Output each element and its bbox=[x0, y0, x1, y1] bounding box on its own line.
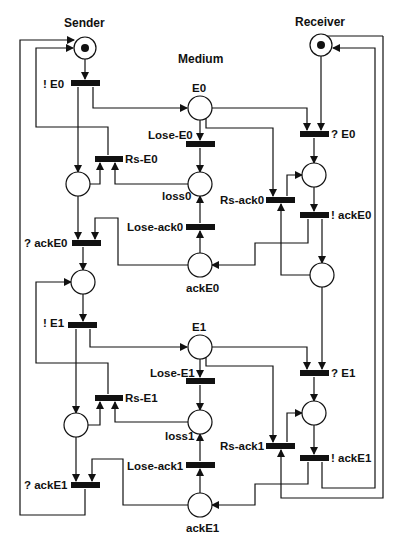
token-sender-init bbox=[81, 44, 89, 52]
label-send-E0: ! E0 bbox=[43, 78, 64, 90]
place-E1 bbox=[188, 335, 212, 359]
place-E0 bbox=[188, 96, 212, 120]
place-receiver-ready1 bbox=[310, 263, 334, 287]
transition-rs-ack1 bbox=[266, 443, 295, 449]
place-ackE0 bbox=[188, 253, 212, 277]
label-send-ackE0: ! ackE0 bbox=[331, 209, 371, 221]
transition-send-ackE0 bbox=[300, 212, 329, 218]
transition-send-E1 bbox=[68, 322, 97, 328]
transition-rs-E1 bbox=[95, 395, 123, 401]
label-recv-E0: ? E0 bbox=[331, 128, 355, 140]
transition-rs-ack0 bbox=[266, 197, 295, 203]
label-place-ackE0: ackE0 bbox=[186, 282, 219, 294]
transition-recv-E1 bbox=[300, 370, 329, 376]
label-place-ackE1: ackE1 bbox=[186, 522, 220, 534]
transition-lose-E0 bbox=[186, 141, 215, 147]
label-place-loss0: loss0 bbox=[162, 190, 191, 202]
label-place-loss1: loss1 bbox=[165, 430, 195, 442]
label-place-E1: E1 bbox=[192, 321, 207, 333]
place-sender-wait1 bbox=[64, 413, 88, 437]
label-lose-E1: Lose-E1 bbox=[150, 367, 195, 379]
transition-recv-ackE0 bbox=[72, 240, 101, 246]
label-rs-ack0: Rs-ack0 bbox=[220, 194, 264, 206]
place-receiver-got1 bbox=[302, 401, 326, 425]
transition-recv-ackE1 bbox=[71, 482, 100, 488]
label-send-ackE1: ! ackE1 bbox=[331, 452, 372, 464]
petri-net-diagram: Sender Medium Receiver bbox=[0, 0, 399, 545]
label-rs-E1: Rs-E1 bbox=[125, 392, 158, 404]
label-place-E0: E0 bbox=[192, 82, 206, 94]
transition-recv-E0 bbox=[300, 131, 329, 137]
transition-send-E0 bbox=[71, 80, 100, 86]
label-send-E1: ! E1 bbox=[43, 317, 65, 329]
label-recv-ackE1: ? ackE1 bbox=[24, 479, 68, 491]
label-lose-ack1: Lose-ack1 bbox=[127, 460, 184, 472]
label-recv-ackE0: ? ackE0 bbox=[24, 237, 67, 249]
label-recv-E1: ? E1 bbox=[331, 367, 356, 379]
place-receiver-got0 bbox=[302, 163, 326, 187]
transition-send-ackE1 bbox=[300, 455, 329, 461]
place-loss0 bbox=[188, 172, 212, 196]
place-sender-wait0 bbox=[66, 172, 90, 196]
receiver-header: Receiver bbox=[295, 15, 345, 29]
transition-lose-ack1 bbox=[186, 462, 215, 468]
transition-rs-E0 bbox=[95, 156, 123, 162]
token-receiver-init bbox=[317, 41, 325, 49]
place-ackE1 bbox=[188, 493, 212, 517]
label-rs-E0: Rs-E0 bbox=[125, 153, 158, 165]
medium-header: Medium bbox=[178, 52, 223, 66]
place-sender-ready1 bbox=[71, 270, 95, 294]
label-rs-ack1: Rs-ack1 bbox=[220, 440, 265, 452]
transition-lose-ack0 bbox=[186, 224, 215, 230]
label-lose-E0: Lose-E0 bbox=[148, 129, 193, 141]
label-lose-ack0: Lose-ack0 bbox=[127, 221, 183, 233]
sender-header: Sender bbox=[64, 16, 105, 30]
